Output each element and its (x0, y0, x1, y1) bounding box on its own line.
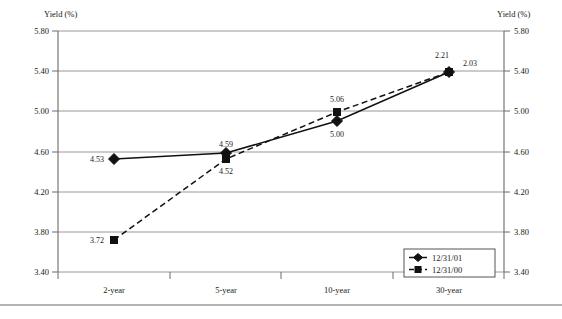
y-tick-label: 5.80 (514, 26, 529, 36)
y-tick-label: 5.80 (34, 26, 49, 36)
y-tick-label: 3.80 (514, 227, 529, 237)
data-label: 5.00 (330, 130, 344, 139)
right-axis-title: Yield (%) (497, 9, 530, 19)
legend-label: 12/31/01 (432, 253, 462, 263)
data-label: 4.53 (90, 155, 104, 164)
y-tick-label: 3.40 (514, 267, 529, 277)
data-label: 2.03 (463, 59, 477, 68)
y-tick-label: 3.40 (34, 267, 49, 277)
data-label: 3.72 (90, 236, 104, 245)
left-axis-title: Yield (%) (44, 9, 77, 19)
y-tick-label: 5.00 (34, 106, 49, 116)
y-tick-label: 5.00 (514, 106, 529, 116)
x-tick-label: 30-year (436, 285, 462, 295)
data-label: 4.59 (219, 140, 233, 149)
data-label: 4.52 (219, 167, 233, 176)
x-tick-label: 2-year (103, 285, 125, 295)
y-tick-label: 3.80 (34, 227, 49, 237)
y-tick-label: 5.40 (34, 66, 49, 76)
y-tick-label: 5.40 (514, 66, 529, 76)
data-label: 2.21 (435, 51, 449, 60)
chart-legend[interactable]: 12/31/01 12/31/00 (404, 249, 495, 277)
y-tick-label: 4.60 (514, 147, 529, 157)
y-tick-label: 4.20 (514, 187, 529, 197)
yield-curve-chart: Yield (%) Yield (%) (0, 0, 562, 319)
legend-label: 12/31/00 (432, 265, 462, 275)
x-tick-label: 5-year (215, 285, 237, 295)
y-tick-label: 4.20 (34, 187, 49, 197)
y-tick-label: 4.60 (34, 147, 49, 157)
x-tick-label: 10-year (324, 285, 350, 295)
square-marker-icon (415, 267, 421, 273)
data-label: 5.06 (330, 95, 344, 104)
